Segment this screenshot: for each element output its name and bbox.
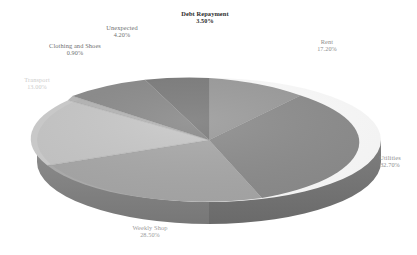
slice-label-unexpected-name: Unexpected [82,24,162,31]
slice-label-transport-value: 13.00% [6,83,68,90]
slice-label-unexpected: Unexpected 4.20% [82,24,162,38]
pie-slices [31,78,381,202]
slice-label-rent: Rent 17.20% [296,38,358,52]
slice-label-rent-name: Rent [296,38,358,45]
slice-label-rent-value: 17.20% [296,45,358,52]
slice-label-weekly-shop-name: Weekly Shop [106,224,194,231]
slice-label-debt-repayment-value: 3.50% [150,17,260,24]
pie-chart-page: Debt Repayment 3.50% Unexpected 4.20% Cl… [0,0,417,255]
slice-label-debt-repayment-name: Debt Repayment [150,10,260,17]
slice-label-weekly-shop-value: 28.50% [106,231,194,238]
slice-label-debt-repayment: Debt Repayment 3.50% [150,10,260,24]
slice-label-clothing-and-shoes-value: 0.90% [26,49,124,56]
slice-label-transport-name: Transport [6,76,68,83]
slice-label-utilities-name: Utilities [362,154,417,161]
slice-label-utilities-value: 32.70% [362,161,417,168]
slice-label-weekly-shop: Weekly Shop 28.50% [106,224,194,238]
pie-chart-figure: Debt Repayment 3.50% Unexpected 4.20% Cl… [0,0,417,255]
slice-label-clothing-and-shoes-name: Clothing and Shoes [26,42,124,49]
slice-label-utilities: Utilities 32.70% [362,154,417,168]
slice-label-transport: Transport 13.00% [6,76,68,90]
slice-label-unexpected-value: 4.20% [82,31,162,38]
slice-label-clothing-and-shoes: Clothing and Shoes 0.90% [26,42,124,56]
